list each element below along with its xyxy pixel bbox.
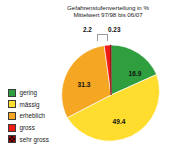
legend-swatch-erheblich xyxy=(8,112,16,120)
pie-slices xyxy=(62,45,160,141)
legend-label-erheblich: erheblich xyxy=(20,112,46,119)
pie-graphic: 16.9 49.4 31.3 xyxy=(57,41,165,149)
legend-swatch-maessig xyxy=(8,100,16,108)
leader-line-gross xyxy=(97,34,98,41)
slice-value-erheblich: 31.3 xyxy=(78,81,91,88)
legend-item-gross: gross xyxy=(8,122,49,134)
chart-legend: gering mässig erheblich gross sehr gross xyxy=(8,87,49,145)
leader-line-sehr-gross xyxy=(107,34,108,41)
legend-swatch-sehr-gross xyxy=(8,135,16,143)
legend-item-sehr-gross: sehr gross xyxy=(8,133,49,145)
legend-label-maessig: mässig xyxy=(20,101,40,108)
slice-value-gering: 16.9 xyxy=(129,70,142,77)
callout-label-gross: 2.2 xyxy=(83,26,92,33)
chart-title-block: Gefahrenstufenverteilung in % Mittelwert… xyxy=(46,4,170,19)
pie-svg xyxy=(57,41,165,149)
slice-value-maessig: 49.4 xyxy=(113,118,126,125)
legend-item-maessig: mässig xyxy=(8,99,49,111)
legend-swatch-gross xyxy=(8,124,16,132)
callout-label-sehr-gross: 0.23 xyxy=(108,26,120,33)
legend-item-gering: gering xyxy=(8,87,49,99)
pie-chart-figure: Gefahrenstufenverteilung in % Mittelwert… xyxy=(0,0,172,161)
legend-label-sehr-gross: sehr gross xyxy=(20,136,49,143)
legend-swatch-gering xyxy=(8,89,16,97)
pie-slice-sehr-gross xyxy=(110,45,111,95)
legend-label-gering: gering xyxy=(20,89,38,96)
legend-item-erheblich: erheblich xyxy=(8,110,49,122)
chart-title: Gefahrenstufenverteilung in % xyxy=(46,4,170,11)
legend-label-gross: gross xyxy=(20,124,35,131)
chart-subtitle: Mittelwert 97/98 bis 06/07 xyxy=(46,11,170,18)
